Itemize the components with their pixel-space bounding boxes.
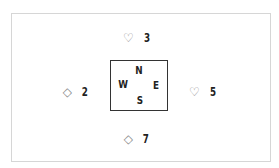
card-rank: 3 [144, 31, 150, 44]
card-south: ◇ 7 [124, 132, 150, 145]
diamond-icon: ◇ [63, 85, 72, 97]
card-north: ♡ 3 [123, 31, 151, 44]
direction-south: S [137, 95, 143, 106]
card-east: ♡ 5 [189, 85, 217, 98]
heart-icon: ♡ [123, 31, 134, 43]
direction-north: N [135, 65, 142, 76]
direction-east: E [153, 80, 159, 91]
card-rank: 2 [82, 85, 88, 98]
heart-icon: ♡ [189, 85, 200, 97]
card-rank: 7 [143, 132, 149, 145]
card-west: ◇ 2 [63, 85, 89, 98]
diamond-icon: ◇ [124, 132, 133, 144]
direction-west: W [118, 79, 128, 90]
card-rank: 5 [210, 85, 216, 98]
